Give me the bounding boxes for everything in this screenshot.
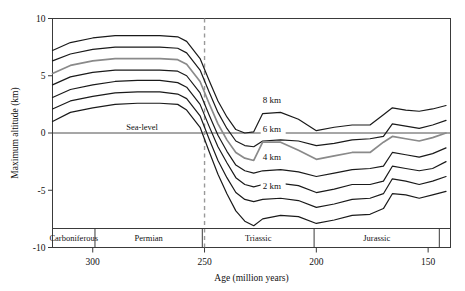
y-tick-label: 0 [41,128,46,138]
series-label-8-km: 8 km [263,95,281,105]
series-line-curve-7 [53,103,447,226]
x-tick-label: 200 [309,257,324,267]
y-tick-label: 10 [36,14,46,24]
y-axis-title: Maximum altitude (km) [10,87,21,178]
y-tick-label: 5 [41,71,46,81]
series-line-curve-1 [53,36,447,133]
series-line-curve-3 [53,59,447,161]
x-tick-label: 250 [197,257,212,267]
series-line-curve-6 [53,92,447,208]
series-line-curve-5 [53,80,447,192]
chart-container: 1050-5-10300250200150CarboniferousPermia… [0,0,465,291]
sea-level-label: Sea-level [126,122,158,132]
x-tick-label: 300 [86,257,101,267]
x-axis-title: Age (million years) [214,273,288,284]
period-band-label-permian: Permian [134,233,163,243]
period-band-label-jurassic: Jurassic [363,233,390,243]
period-band-label-triassic: Triassic [245,233,272,243]
period-band-label-carboniferous: Carboniferous [49,233,98,243]
series-label-2-km: 2 km [263,181,281,191]
y-tick-label: -5 [38,186,46,196]
altitude-vs-age-chart: 1050-5-10300250200150CarboniferousPermia… [0,0,465,291]
series-label-4-km: 4 km [263,152,281,162]
x-tick-label: 150 [421,257,436,267]
series-label-6-km: 6 km [263,124,281,134]
series-line-curve-2 [53,47,447,147]
series-line-curve-4 [53,70,447,176]
y-tick-label: -10 [33,243,46,253]
